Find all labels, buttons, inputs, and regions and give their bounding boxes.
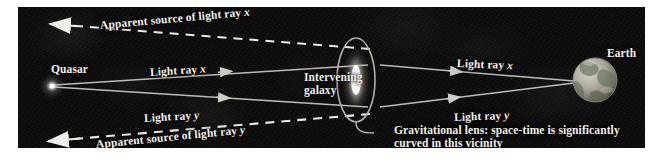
earth-object — [568, 58, 617, 104]
label-gravitational-lens-caption: Gravitational lens: space-time is signif… — [394, 124, 634, 148]
diagram-panel: Apparent source of light ray x Apparent … — [18, 7, 645, 148]
quasar-object — [39, 73, 65, 99]
label-light-ray-x-right: Light ray x — [457, 57, 514, 72]
label-intervening-galaxy: Intervening galaxy — [304, 71, 376, 97]
label-light-ray-y-right: Light ray y — [454, 109, 510, 124]
apparent-source-x-line — [50, 24, 370, 49]
figure-gravitational-lensing: Apparent source of light ray x Apparent … — [0, 0, 659, 164]
label-quasar: Quasar — [51, 63, 88, 76]
label-earth: Earth — [607, 47, 636, 60]
galaxy-caption-leader-line — [356, 122, 374, 133]
